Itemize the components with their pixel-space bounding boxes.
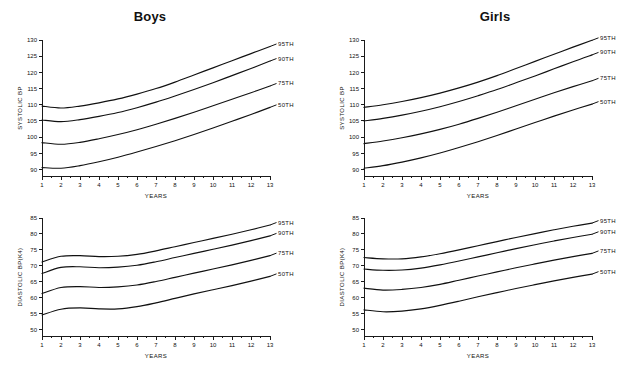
x-tick-label: 5 (116, 182, 120, 188)
chart-girls-systolic: 9095100105110115120125130123456789101112… (330, 34, 630, 202)
x-tick-label: 10 (210, 182, 217, 188)
x-tick-label: 1 (40, 342, 44, 348)
curve-50th (364, 274, 592, 312)
x-tick-label: 6 (457, 182, 461, 188)
y-tick-label: 90 (30, 167, 37, 173)
x-tick-label: 1 (362, 342, 366, 348)
y-tick-label: 70 (352, 263, 359, 269)
curve-90th (364, 234, 592, 270)
curve-50th (364, 104, 592, 168)
y-tick-label: 60 (352, 295, 359, 301)
leader-90th (270, 233, 277, 236)
y-tick-label: 105 (27, 118, 38, 124)
y-tick-label: 80 (30, 231, 37, 237)
curve-90th (42, 236, 270, 274)
x-tick-label: 4 (97, 342, 101, 348)
curve-95th (42, 46, 270, 108)
axis-spine (42, 218, 270, 336)
y-tick-label: 70 (30, 263, 37, 269)
x-tick-label: 2 (59, 182, 63, 188)
y-tick-label: 85 (352, 215, 359, 221)
x-tick-label: 9 (192, 342, 196, 348)
x-tick-label: 7 (476, 182, 480, 188)
x-tick-label: 10 (532, 182, 539, 188)
series-label-95th: 95TH (278, 41, 294, 47)
series-label-75th: 75TH (600, 75, 616, 81)
y-tick-label: 75 (352, 247, 359, 253)
y-axis-title: DIASTOLIC BP(K4) (339, 248, 345, 307)
leader-95th (592, 221, 599, 224)
x-axis-title: YEARS (467, 193, 489, 199)
series-label-75th: 75TH (278, 80, 294, 86)
x-tick-label: 9 (192, 182, 196, 188)
leader-95th (592, 38, 599, 41)
y-tick-label: 50 (352, 327, 359, 333)
y-tick-label: 130 (349, 37, 360, 43)
series-label-75th: 75TH (600, 248, 616, 254)
curve-95th (364, 40, 592, 107)
y-tick-label: 75 (30, 247, 37, 253)
y-tick-label: 55 (30, 311, 37, 317)
x-tick-label: 4 (97, 182, 101, 188)
x-tick-label: 8 (495, 342, 499, 348)
x-tick-label: 11 (551, 182, 558, 188)
x-tick-label: 1 (362, 182, 366, 188)
x-tick-label: 8 (173, 342, 177, 348)
y-tick-label: 125 (349, 53, 360, 59)
leader-95th (270, 44, 277, 47)
y-tick-label: 65 (30, 279, 37, 285)
x-tick-label: 13 (267, 182, 274, 188)
y-tick-label: 85 (30, 215, 37, 221)
x-tick-label: 9 (514, 182, 518, 188)
x-tick-label: 10 (532, 342, 539, 348)
series-label-50th: 50TH (278, 102, 294, 108)
x-tick-label: 12 (248, 182, 255, 188)
x-tick-label: 4 (419, 182, 423, 188)
girls-diastolic-svg: 505560657075808512345678910111213DIASTOL… (330, 212, 630, 362)
series-label-75th: 75TH (278, 250, 294, 256)
series-label-90th: 90TH (278, 56, 294, 62)
series-label-95th: 95TH (600, 218, 616, 224)
boys-diastolic-svg: 505560657075808512345678910111213DIASTOL… (8, 212, 326, 362)
series-label-50th: 50TH (278, 271, 294, 277)
y-tick-label: 50 (30, 327, 37, 333)
leader-75th (270, 83, 277, 86)
x-axis-title: YEARS (145, 193, 167, 199)
x-tick-label: 3 (400, 342, 404, 348)
leader-95th (270, 223, 277, 226)
leader-50th (270, 105, 277, 108)
y-tick-label: 125 (27, 53, 38, 59)
x-tick-label: 11 (551, 342, 558, 348)
leader-50th (592, 102, 599, 105)
curve-50th (42, 276, 270, 315)
x-tick-label: 2 (59, 342, 63, 348)
panel-title-boys: Boys (95, 9, 205, 24)
chart-boys-diastolic: 505560657075808512345678910111213DIASTOL… (8, 212, 326, 362)
leader-75th (270, 253, 277, 256)
x-tick-label: 3 (78, 342, 82, 348)
y-tick-label: 120 (349, 70, 360, 76)
axis-spine (42, 40, 270, 176)
series-label-50th: 50TH (600, 269, 616, 275)
y-tick-label: 100 (349, 134, 360, 140)
x-tick-label: 10 (210, 342, 217, 348)
x-tick-label: 2 (381, 182, 385, 188)
x-tick-label: 11 (229, 182, 236, 188)
leader-90th (270, 59, 277, 62)
curve-95th (42, 225, 270, 262)
y-tick-label: 90 (352, 167, 359, 173)
y-tick-label: 115 (349, 86, 359, 92)
chart-boys-systolic: 9095100105110115120125130123456789101112… (8, 34, 326, 202)
y-axis-title: SYSTOLIC BP (17, 86, 23, 130)
y-tick-label: 55 (352, 311, 359, 317)
curve-75th (42, 86, 270, 144)
x-tick-label: 9 (514, 342, 518, 348)
x-tick-label: 3 (78, 182, 82, 188)
girls-systolic-svg: 9095100105110115120125130123456789101112… (330, 34, 630, 202)
x-tick-label: 1 (40, 182, 44, 188)
leader-75th (592, 78, 599, 81)
x-tick-label: 12 (248, 342, 255, 348)
y-axis-title: DIASTOLIC BP(K4) (17, 248, 23, 307)
series-label-90th: 90TH (600, 229, 616, 235)
x-tick-label: 7 (476, 342, 480, 348)
